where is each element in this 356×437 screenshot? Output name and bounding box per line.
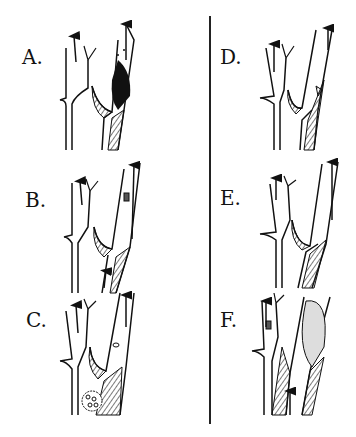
- panel-c-diagram: [60, 293, 134, 415]
- panel-a-diagram: [60, 24, 134, 150]
- panel-f-diagram: [252, 293, 330, 415]
- panel-e-diagram: [260, 162, 338, 288]
- panel-d-diagram: [260, 28, 332, 150]
- panel-b-diagram: [64, 163, 140, 293]
- vessel-illustrations: [0, 0, 356, 437]
